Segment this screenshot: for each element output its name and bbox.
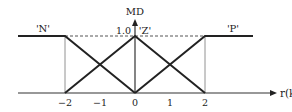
x-tick-0: 0	[132, 97, 138, 108]
membership-function-diagram: MD 1.0 'N' 'Z' 'P' −2 −1 0 1 2 r(k)	[0, 0, 292, 112]
set-label-N: 'N'	[36, 23, 50, 34]
x-tick-minus-1: −1	[93, 97, 107, 108]
y-axis-arrow-icon	[132, 19, 138, 26]
x-tick-2: 2	[202, 97, 208, 108]
x-axis-arrow-icon	[270, 90, 277, 96]
x-axis-label: r(k)	[280, 87, 292, 99]
x-tick-minus-2: −2	[58, 97, 72, 108]
x-tick-1: 1	[167, 97, 173, 108]
peak-value-label: 1.0	[116, 25, 131, 36]
set-label-Z: 'Z'	[139, 25, 151, 36]
y-axis-label: MD	[126, 6, 144, 17]
set-label-P: 'P'	[227, 23, 239, 34]
